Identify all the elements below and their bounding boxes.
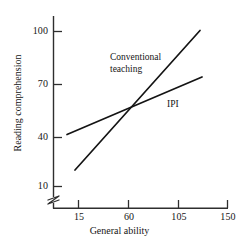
y-axis-break-icon bbox=[48, 196, 59, 204]
y-tick-label-10: 10 bbox=[24, 181, 48, 191]
y-tick-label-100: 100 bbox=[24, 26, 48, 36]
chart-figure: 100 70 40 10 15 60 105 150 Reading compr… bbox=[0, 0, 239, 239]
x-axis-title: General ability bbox=[0, 225, 239, 236]
y-tick-label-40: 40 bbox=[24, 132, 48, 142]
y-axis-title: Reading comprehension bbox=[10, 18, 24, 188]
y-axis-title-text: Reading comprehension bbox=[12, 55, 23, 152]
series-label-conventional-line2: teaching bbox=[110, 64, 161, 76]
x-tick-label-105: 105 bbox=[164, 212, 194, 222]
series-line-ipi bbox=[67, 77, 202, 135]
series-label-conventional-line1: Conventional bbox=[110, 52, 161, 64]
x-tick-label-60: 60 bbox=[114, 212, 144, 222]
series-label-conventional-teaching: Conventional teaching bbox=[110, 52, 161, 75]
x-tick-label-15: 15 bbox=[64, 212, 94, 222]
x-tick-label-150: 150 bbox=[213, 212, 239, 222]
series-label-ipi: IPI bbox=[167, 99, 179, 111]
y-tick-label-70: 70 bbox=[24, 79, 48, 89]
